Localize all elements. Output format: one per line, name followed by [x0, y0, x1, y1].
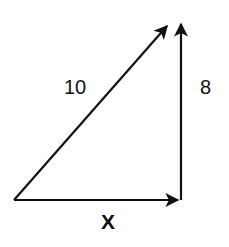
hypotenuse-vector: [14, 26, 167, 200]
vector-triangle-diagram: 10 8 X: [0, 0, 229, 247]
horizontal-label: X: [101, 210, 115, 233]
vertical-label: 8: [200, 76, 211, 98]
hypotenuse-label: 10: [64, 76, 86, 98]
